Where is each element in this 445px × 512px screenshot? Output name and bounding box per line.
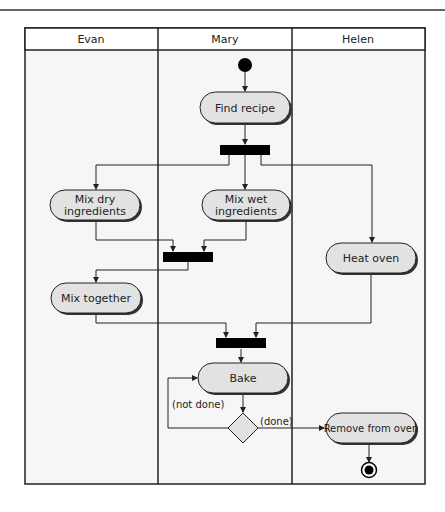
find-recipe-label: Find recipe [215, 102, 275, 115]
mix-dry-line2: ingredients [64, 205, 126, 218]
action-mix-dry[interactable]: Mix dry ingredients [50, 190, 142, 222]
lane-mary-label: Mary [211, 33, 239, 46]
mix-wet-line2: ingredients [215, 205, 277, 218]
action-bake[interactable]: Bake [198, 363, 290, 395]
initial-node [238, 58, 252, 72]
bake-label: Bake [229, 372, 256, 385]
remove-from-oven-label: Remove from oven [324, 423, 419, 434]
heat-oven-label: Heat oven [343, 252, 400, 265]
guard-done: (done) [260, 416, 293, 427]
mix-together-label: Mix together [61, 292, 131, 305]
activity-diagram: Evan Mary Helen Find recipe Mix dry ingr… [0, 0, 445, 512]
action-find-recipe[interactable]: Find recipe [200, 92, 292, 125]
lane-evan-label: Evan [77, 33, 104, 46]
lane-helen-label: Helen [342, 33, 374, 46]
action-remove-from-oven[interactable]: Remove from oven [324, 413, 419, 445]
guard-not-done: (not done) [172, 399, 224, 410]
join-bar [216, 338, 266, 348]
final-node [362, 463, 377, 478]
fork-bar [220, 145, 270, 155]
join-bar [163, 252, 213, 262]
action-heat-oven[interactable]: Heat oven [326, 243, 418, 275]
action-mix-wet[interactable]: Mix wet ingredients [202, 190, 292, 222]
action-mix-together[interactable]: Mix together [51, 283, 143, 315]
